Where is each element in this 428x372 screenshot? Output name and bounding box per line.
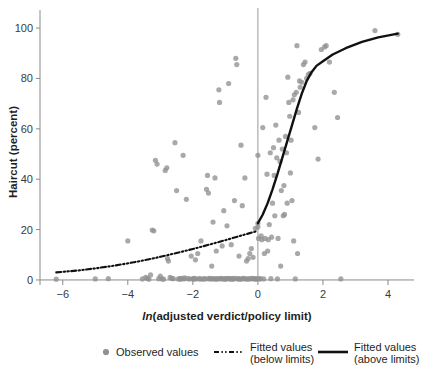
data-point: [299, 80, 304, 85]
data-point: [279, 188, 284, 193]
legend-label-fitted-above-line2: (above limits): [354, 353, 419, 365]
scatter-plot-figure: 020406080100 −6−4−2024 ln(adjusted verdi…: [0, 0, 428, 372]
data-point: [275, 276, 280, 281]
data-point: [166, 258, 171, 263]
data-point: [154, 161, 159, 166]
y-axis-tick-label: 0: [27, 274, 33, 286]
data-point: [276, 138, 281, 143]
data-point: [236, 253, 241, 258]
legend-label-observed: Observed values: [116, 346, 199, 358]
data-point: [210, 219, 215, 224]
data-point: [295, 251, 300, 256]
data-point: [285, 201, 290, 206]
data-point: [271, 145, 276, 150]
data-point: [174, 188, 179, 193]
data-point: [264, 172, 269, 177]
y-axis-tick-label: 60: [21, 123, 33, 135]
y-axis-tick-label: 40: [21, 173, 33, 185]
data-point: [338, 276, 343, 281]
data-point: [238, 143, 243, 148]
data-point: [93, 276, 98, 281]
data-point: [278, 264, 283, 269]
data-point: [287, 114, 292, 119]
data-point: [181, 153, 186, 158]
data-point: [275, 236, 280, 241]
data-point: [234, 62, 239, 67]
chart-container: 020406080100 −6−4−2024 ln(adjusted verdi…: [0, 0, 428, 372]
data-point: [193, 257, 198, 262]
data-point: [184, 197, 189, 202]
data-point: [273, 122, 278, 127]
data-point: [265, 248, 270, 253]
data-point: [172, 140, 177, 145]
x-axis-title-italic-part: ln: [142, 310, 152, 322]
data-point: [272, 213, 277, 218]
data-point: [255, 153, 260, 158]
data-point: [164, 165, 169, 170]
data-point: [263, 95, 268, 100]
data-point: [189, 253, 194, 258]
data-point: [151, 228, 156, 233]
data-point: [171, 276, 176, 281]
data-point: [260, 125, 265, 130]
data-point: [290, 97, 295, 102]
data-point: [242, 175, 247, 180]
data-point: [206, 190, 211, 195]
x-axis-title: ln(adjusted verdict/policy limit): [142, 310, 312, 322]
data-point: [246, 256, 251, 261]
data-point: [106, 276, 111, 281]
legend-label-fitted-above-line1: Fitted values: [354, 341, 417, 353]
data-point: [205, 173, 210, 178]
data-point: [125, 238, 130, 243]
data-point: [249, 246, 254, 251]
x-axis-title-rest: (adjusted verdict/policy limit): [153, 310, 312, 322]
legend-label-fitted-below: Fitted values(below limits): [250, 341, 314, 365]
x-axis-tick-label: −4: [122, 288, 135, 300]
data-point: [198, 238, 203, 243]
data-point: [232, 198, 237, 203]
data-point: [288, 170, 293, 175]
data-point: [291, 238, 296, 243]
legend-label-fitted-above: Fitted values(above limits): [354, 341, 419, 365]
data-point: [315, 156, 320, 161]
legend-label-fitted-below-line2: (below limits): [250, 353, 314, 365]
y-axis-tick-label: 20: [21, 224, 33, 236]
data-point: [224, 223, 229, 228]
data-point: [195, 251, 200, 256]
data-point: [324, 43, 329, 48]
data-point: [282, 212, 287, 217]
y-axis-tick-label: 100: [15, 22, 33, 34]
legend-label-fitted-below-line1: Fitted values: [250, 341, 313, 353]
x-axis-tick-label: 4: [385, 288, 391, 300]
data-point: [216, 87, 221, 92]
data-point: [372, 28, 377, 33]
data-point: [270, 201, 275, 206]
x-axis-tick-label: 0: [255, 288, 261, 300]
data-point: [261, 276, 266, 281]
data-point: [327, 59, 332, 64]
data-point: [148, 272, 153, 277]
data-point: [221, 208, 226, 213]
data-point: [268, 150, 273, 155]
y-axis-title: Haircut (percent): [7, 106, 19, 198]
x-axis-tick-label: −6: [56, 288, 69, 300]
data-point: [298, 85, 303, 90]
data-point: [267, 222, 272, 227]
data-point: [302, 59, 307, 64]
data-point: [54, 277, 59, 282]
data-point: [289, 198, 294, 203]
x-axis-tick-label: 2: [320, 288, 326, 300]
data-point: [240, 203, 245, 208]
data-point: [268, 276, 273, 281]
data-point: [293, 276, 298, 281]
data-point: [233, 56, 238, 61]
data-point: [214, 248, 219, 253]
data-point: [294, 90, 299, 95]
data-point: [312, 125, 317, 130]
data-point: [161, 277, 166, 282]
data-point: [332, 90, 337, 95]
data-point: [250, 255, 255, 260]
data-point: [255, 224, 260, 229]
data-point: [226, 81, 231, 86]
false: [103, 349, 109, 355]
